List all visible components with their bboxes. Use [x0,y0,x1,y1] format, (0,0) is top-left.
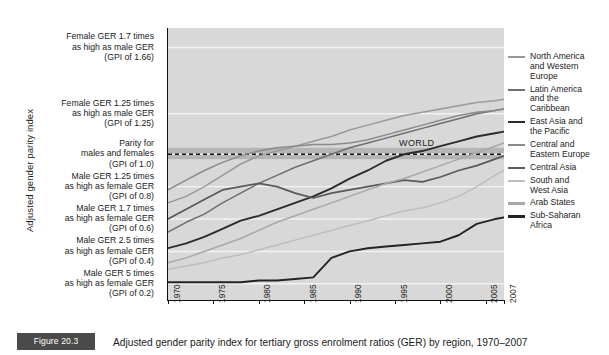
x-tick-mark [504,300,505,304]
legend-item[interactable]: North America and Western Europe [508,52,609,81]
figure-number-label: Figure 20.3 [17,333,95,350]
legend-color-swatch [508,89,525,91]
figure-number-badge: Figure 20.3 [17,333,95,350]
x-tick-mark [486,300,487,304]
y-axis-annotation-label: Parity for males and females (GPI of 1.0… [4,138,154,169]
legend-item[interactable]: Arab States [508,198,609,208]
chart-legend: North America and Western EuropeLatin Am… [508,52,609,234]
legend-item-label: Central and Eastern Europe [530,140,590,160]
x-tick-label: 1985 [308,284,318,303]
figure-container: Adjusted gender parity index Female GER … [0,0,609,355]
x-tick-mark [213,300,214,304]
y-axis-annotation-label: Female GER 1.7 times as high as male GER… [4,31,154,62]
series-line [168,217,504,282]
chart-lines [168,28,504,300]
legend-item[interactable]: Central Asia [508,163,609,173]
legend-item-label: East Asia and the Pacific [530,117,583,137]
legend-color-swatch [508,180,525,182]
y-axis-annotation-label: Male GER 5 times as high as female GER (… [4,268,154,299]
legend-item-label: Latin America and the Caribbean [530,85,582,114]
legend-item-label: North America and Western Europe [530,52,584,81]
x-tick-mark [168,300,169,304]
legend-item[interactable]: Central and Eastern Europe [508,140,609,160]
parity-band [168,148,504,159]
x-tick-mark [259,300,260,304]
legend-item[interactable]: East Asia and the Pacific [508,117,609,137]
legend-item[interactable]: South and West Asia [508,176,609,196]
x-tick-label: 1975 [217,284,227,303]
y-axis-annotation-label: Male GER 1.25 times as high as female GE… [4,171,154,202]
y-axis-annotation-label: Male GER 1.7 times as high as female GER… [4,203,154,234]
legend-item-label: South and West Asia [530,176,569,196]
legend-color-swatch [508,144,525,146]
y-axis-annotation-label: Female GER 1.25 times as high as male GE… [4,98,154,129]
plot-area [168,28,504,300]
legend-color-swatch [508,167,525,169]
legend-item[interactable]: Latin America and the Caribbean [508,85,609,114]
x-tick-label: 1980 [262,284,272,303]
y-axis-line [167,28,168,300]
x-tick-label: 2007 [508,284,518,303]
x-tick-label: 2005 [489,284,499,303]
legend-item-label: Arab States [530,198,575,208]
legend-color-swatch [508,121,525,123]
legend-item[interactable]: Sub-Saharan Africa [508,211,609,231]
y-axis-annotation-label: Male GER 2.5 times as high as female GER… [4,235,154,266]
x-tick-mark [304,300,305,304]
legend-color-swatch [508,215,525,217]
series-line [168,143,504,263]
x-tick-label: 1995 [399,284,409,303]
legend-color-swatch [508,202,525,204]
x-tick-label: 2000 [444,284,454,303]
x-tick-mark [350,300,351,304]
world-annotation: WORLD [399,138,435,148]
series-line [168,156,504,219]
x-tick-mark [395,300,396,304]
x-tick-label: 1990 [353,284,363,303]
figure-caption: Adjusted gender parity index for tertiar… [113,336,608,349]
x-tick-label: 1970 [172,284,182,303]
x-tick-mark [440,300,441,304]
series-line [168,109,504,232]
legend-item-label: Sub-Saharan Africa [530,211,581,231]
legend-color-swatch [508,56,525,58]
legend-item-label: Central Asia [530,163,576,173]
